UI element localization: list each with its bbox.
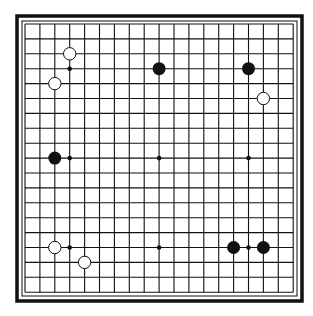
white-stone xyxy=(49,77,61,89)
white-stone xyxy=(78,256,90,268)
black-stone xyxy=(48,152,61,165)
black-stone xyxy=(227,241,240,254)
white-stone xyxy=(49,241,61,253)
star-point xyxy=(246,156,251,161)
star-point xyxy=(67,245,72,250)
star-point xyxy=(157,156,162,161)
star-point xyxy=(246,245,251,250)
go-board xyxy=(0,0,313,316)
black-stone xyxy=(242,62,255,75)
white-stone xyxy=(257,92,269,104)
black-stone xyxy=(257,241,270,254)
star-point xyxy=(157,245,162,250)
star-point xyxy=(67,156,72,161)
white-stone xyxy=(63,48,75,60)
black-stone xyxy=(153,62,166,75)
star-point xyxy=(67,66,72,71)
